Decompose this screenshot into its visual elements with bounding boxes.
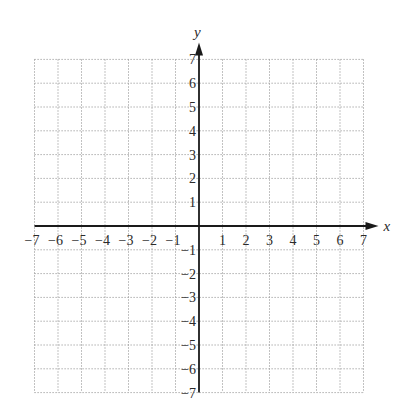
y-tick-label: −1 (181, 243, 196, 258)
x-tick-label: −6 (48, 233, 63, 248)
x-tick-label: 6 (337, 233, 344, 248)
y-axis-label: y (192, 24, 201, 40)
y-tick-label: −4 (181, 314, 196, 329)
y-tick-label: −5 (181, 338, 196, 353)
x-tick-label: 1 (219, 233, 226, 248)
y-tick-label: −2 (181, 267, 196, 282)
y-tick-label: −7 (181, 386, 196, 401)
x-tick-label: 7 (360, 233, 367, 248)
x-tick-label: −4 (95, 233, 110, 248)
x-tick-label: −1 (166, 233, 181, 248)
y-tick-label: −3 (181, 290, 196, 305)
coordinate-plane: x y −7−6−5−4−3−2−11234567 −7−6−5−4−3−2−1… (0, 0, 412, 416)
y-tick-label: 4 (189, 124, 196, 139)
x-tick-label: −5 (72, 233, 87, 248)
y-tick-label: −6 (181, 362, 196, 377)
axes: x y (35, 24, 391, 392)
x-tick-label: 4 (290, 233, 297, 248)
x-tick-label: −7 (25, 233, 40, 248)
y-tick-label: 7 (189, 52, 196, 67)
y-tick-label: 6 (189, 76, 196, 91)
x-tick-label: −3 (119, 233, 134, 248)
y-tick-label: 2 (189, 171, 196, 186)
y-tick-label: 3 (189, 148, 196, 163)
x-axis-label: x (383, 218, 391, 234)
x-tick-label: 5 (313, 233, 320, 248)
x-axis-arrow-icon (366, 222, 379, 230)
x-tick-label: 3 (266, 233, 273, 248)
y-tick-label: 5 (189, 100, 196, 115)
x-tick-label: −2 (142, 233, 157, 248)
y-tick-label: 1 (189, 195, 196, 210)
x-tick-label: 2 (243, 233, 250, 248)
y-axis-arrow-icon (195, 42, 203, 55)
